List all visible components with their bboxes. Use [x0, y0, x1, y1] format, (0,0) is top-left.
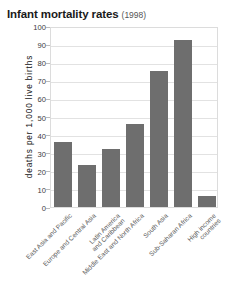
gridline: [51, 82, 217, 83]
y-tick-label: 90: [20, 41, 46, 50]
gridline: [51, 100, 217, 101]
bar: [198, 196, 216, 207]
y-tick-label: 40: [20, 131, 46, 140]
bar: [174, 40, 192, 207]
y-tick-label: 70: [20, 77, 46, 86]
gridline: [51, 46, 217, 47]
y-tick-label: 20: [20, 167, 46, 176]
bar: [150, 71, 168, 207]
gridline: [51, 64, 217, 65]
y-tick-label: 30: [20, 149, 46, 158]
y-tick-label: 0: [20, 204, 46, 213]
bar: [78, 165, 96, 207]
chart-subtitle: (1998): [122, 10, 147, 20]
bar: [102, 149, 120, 207]
y-tick-label: 50: [20, 113, 46, 122]
chart-figure: Infant mortality rates(1998) deaths per …: [0, 0, 252, 307]
y-tick-label: 100: [20, 23, 46, 32]
chart-title-block: Infant mortality rates(1998): [7, 4, 247, 20]
gridline: [51, 118, 217, 119]
bar: [126, 124, 144, 207]
y-tick-label: 80: [20, 59, 46, 68]
y-tick-label: 10: [20, 185, 46, 194]
bar: [54, 142, 72, 207]
plot-area: [50, 27, 218, 208]
chart-title: Infant mortality rates: [7, 8, 119, 20]
y-tick-label: 60: [20, 95, 46, 104]
